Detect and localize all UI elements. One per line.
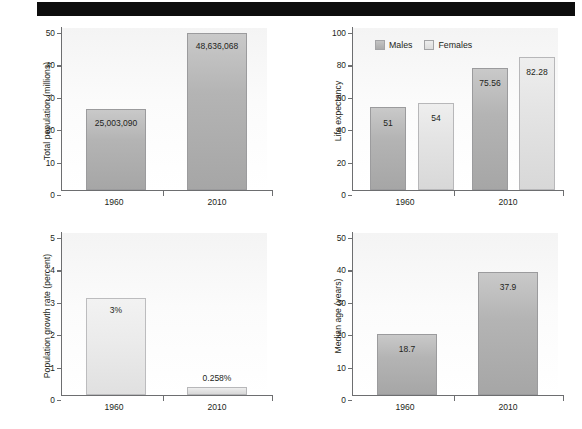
x-tick-label-2010: 2010 — [468, 402, 548, 412]
y-tick-label: 30 — [46, 93, 61, 104]
y-tick-label: 20 — [337, 158, 352, 169]
x-axis-line — [352, 190, 564, 191]
bar-value-2010: 0.258% — [173, 373, 261, 383]
bar-2010[interactable] — [187, 387, 247, 395]
bar-2010[interactable] — [187, 33, 247, 191]
y-axis-title: Total population (millions) — [40, 26, 54, 196]
y-tick-label: 0 — [50, 190, 61, 201]
y-tick-label: 50 — [337, 233, 352, 244]
charts-grid: Total population (millions) 50 40 30 20 … — [0, 18, 582, 429]
x-tick-label-2010: 2010 — [177, 402, 257, 412]
y-axis-title: Median age (years) — [331, 231, 345, 401]
y-tick-label: 0 — [341, 190, 352, 201]
x-tick-label-1960: 1960 — [365, 402, 445, 412]
y-axis-title: Population growth rate (percent) — [40, 231, 54, 401]
bars-layer: 25,003,090 48,636,068 — [62, 28, 267, 190]
y-tick-label: 40 — [46, 60, 61, 71]
x-tick-label-1960: 1960 — [74, 197, 154, 207]
y-tick-label: 10 — [337, 363, 352, 374]
y-tick-label: 30 — [337, 298, 352, 309]
x-tick-label-1960: 1960 — [74, 402, 154, 412]
x-tick-label-2010: 2010 — [177, 197, 257, 207]
x-axis-line — [61, 395, 273, 396]
x-tick-label-1960: 1960 — [365, 197, 445, 207]
y-tick-label: 60 — [337, 93, 352, 104]
y-tick-label: 20 — [46, 125, 61, 136]
y-tick-label: 20 — [337, 330, 352, 341]
y-tick-label: 3 — [50, 298, 61, 309]
y-tick-label: 100 — [332, 28, 352, 39]
x-tick-label-2010: 2010 — [468, 197, 548, 207]
bars-layer: 18.7 37.9 — [353, 233, 558, 395]
bar-value-1960: 25,003,090 — [72, 118, 160, 128]
bar-value-1960: 18.7 — [363, 344, 451, 354]
y-tick-label: 4 — [50, 265, 61, 276]
chart-median-age: Median age (years) 50 40 30 20 10 0 18.7… — [291, 223, 582, 428]
chart-population-growth-rate: Population growth rate (percent) 5 4 3 2… — [0, 223, 291, 428]
bar-value-2010: 37.9 — [464, 282, 552, 292]
black-header-bar — [37, 2, 575, 16]
y-tick-label: 80 — [337, 60, 352, 71]
y-tick-label: 10 — [46, 158, 61, 169]
y-tick-label: 1 — [50, 363, 61, 374]
y-tick-label: 5 — [50, 233, 61, 244]
bar-value-1960-females: 54 — [404, 113, 468, 123]
y-axis-title: Life expectancy — [331, 26, 345, 196]
chart-life-expectancy: Life expectancy 100 80 60 40 20 0 Males … — [291, 18, 582, 223]
bar-value-1960: 3% — [72, 305, 160, 315]
y-tick-label: 0 — [341, 395, 352, 406]
y-tick-label: 40 — [337, 265, 352, 276]
x-axis-line — [352, 395, 564, 396]
y-tick-label: 2 — [50, 330, 61, 341]
y-tick-label: 50 — [46, 28, 61, 39]
bars-layer: 51 54 75.56 82.28 — [353, 28, 558, 190]
bars-layer: 3% 0.258% — [62, 233, 267, 395]
x-axis-line — [61, 190, 273, 191]
chart-total-population: Total population (millions) 50 40 30 20 … — [0, 18, 291, 223]
bar-value-2010: 48,636,068 — [173, 41, 261, 51]
bar-value-2010-males: 75.56 — [458, 78, 522, 88]
y-tick-label: 40 — [337, 125, 352, 136]
bar-value-2010-females: 82.28 — [505, 67, 569, 77]
y-tick-label: 0 — [50, 395, 61, 406]
